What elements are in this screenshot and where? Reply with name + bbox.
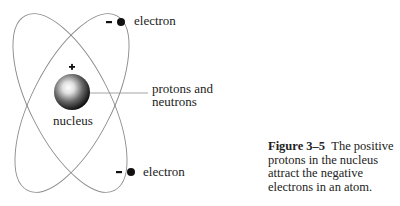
nucleus-plus-icon: [69, 64, 75, 70]
electron-top-dot: [117, 18, 125, 26]
electron-bottom-label: electron: [143, 165, 185, 178]
figure-number: Figure 3–5: [268, 139, 325, 153]
protons-neutrons-label-line2: neutrons: [152, 95, 197, 108]
nucleus-sphere: [54, 74, 90, 110]
electron-bottom-minus-icon: [116, 171, 122, 173]
electron-top-label: electron: [134, 14, 176, 27]
nucleus-label: nucleus: [53, 114, 93, 127]
figure-caption: Figure 3–5 The positive protons in the n…: [268, 140, 400, 194]
electron-bottom-dot: [127, 168, 135, 176]
electron-top-minus-icon: [106, 21, 112, 23]
